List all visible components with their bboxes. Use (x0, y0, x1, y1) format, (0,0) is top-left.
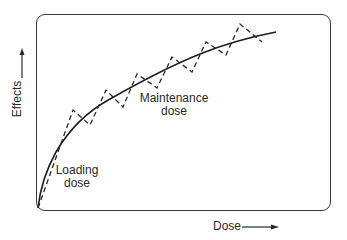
curves-layer (0, 0, 347, 240)
maintenance-dose-label-line2: dose (136, 105, 212, 118)
arrow-up-icon (20, 48, 25, 78)
x-axis-label: Dose (213, 219, 241, 233)
loading-dose-label-line2: dose (55, 177, 99, 190)
y-axis-label: Effects (10, 76, 24, 122)
dose-effect-diagram: Loading dose Maintenance dose Effects Do… (0, 0, 347, 240)
maintenance-dose-label: Maintenance dose (136, 92, 212, 118)
arrow-right-icon (242, 225, 279, 230)
loading-dose-label: Loading dose (55, 164, 99, 190)
